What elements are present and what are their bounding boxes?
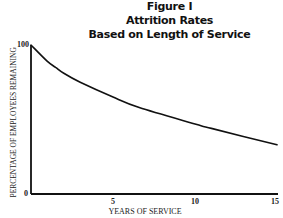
attrition-curve — [31, 45, 277, 145]
plot-area — [0, 0, 283, 218]
